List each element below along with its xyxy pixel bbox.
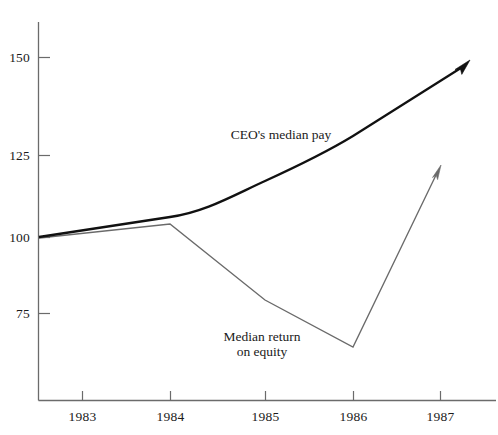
series-annotation-median-return-line1: Median return	[224, 329, 301, 344]
series-annotation-ceos-median-pay: CEO's median pay	[231, 127, 332, 142]
y-axis-label-150: 150	[0, 51, 30, 65]
series-line-ceos-median-pay	[39, 66, 464, 237]
y-axis-label-125: 125	[0, 149, 30, 163]
x-axis-label-1986: 1986	[340, 410, 368, 424]
series-arrowhead-ceos-median-pay	[455, 60, 470, 74]
y-axis-ticks	[39, 58, 51, 314]
x-axis-label-1983: 1983	[69, 410, 97, 424]
chart-container: 150 125 100 75 1983 1984 1985 1986 1987 …	[0, 0, 498, 435]
x-axis-label-1984: 1984	[157, 410, 185, 424]
y-axis-label-75: 75	[0, 307, 30, 321]
series-arrowhead-median-return-on-equity	[433, 165, 442, 180]
x-axis-ticks	[83, 391, 441, 401]
chart-plot-area	[0, 0, 498, 435]
series-annotation-median-return-line2: on equity	[237, 344, 288, 359]
y-axis-label-100: 100	[0, 231, 30, 245]
x-axis-label-1987: 1987	[427, 410, 455, 424]
series-line-median-return-on-equity	[39, 173, 437, 347]
x-axis-label-1985: 1985	[252, 410, 280, 424]
